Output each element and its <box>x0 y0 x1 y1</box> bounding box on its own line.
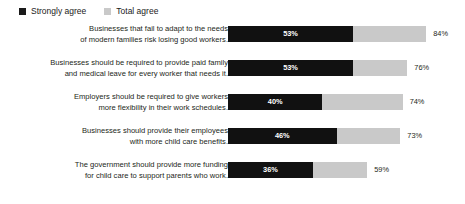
chart-row: Employers should be required to give wor… <box>0 92 465 126</box>
chart-row: Businesses should provide their employee… <box>0 126 465 160</box>
bar-segment-strongly-agree[interactable]: 46% <box>228 128 337 144</box>
category-label: Businesses should provide their employee… <box>23 126 228 147</box>
stacked-bar-chart: Strongly agree Total agree Businesses th… <box>0 0 465 204</box>
bar-value-strongly-agree: 46% <box>275 132 290 140</box>
bar-value-total-agree: 74% <box>410 98 425 106</box>
bar-segment-strongly-agree[interactable]: 36% <box>228 162 313 178</box>
bar-value-strongly-agree: 36% <box>263 166 278 174</box>
bar-segment-total-agree[interactable] <box>337 128 401 144</box>
bar-value-strongly-agree: 40% <box>268 98 283 106</box>
bar-group: 36%59% <box>228 162 389 178</box>
bar-group: 53%76% <box>228 60 429 76</box>
bar-group: 46%73% <box>228 128 422 144</box>
bar-segment-strongly-agree[interactable]: 40% <box>228 94 322 110</box>
bar-group: 40%74% <box>228 94 424 110</box>
legend-item-total-agree: Total agree <box>104 7 158 16</box>
legend-item-strongly-agree: Strongly agree <box>19 7 86 16</box>
chart-legend: Strongly agree Total agree <box>19 4 158 18</box>
bar-segment-total-agree[interactable] <box>313 162 367 178</box>
legend-swatch-total-agree-icon <box>104 8 111 15</box>
bar-value-strongly-agree: 53% <box>283 64 298 72</box>
stacked-bar[interactable]: 53% <box>228 26 426 42</box>
bar-segment-strongly-agree[interactable]: 53% <box>228 60 353 76</box>
category-label: Businesses that fail to adapt to the nee… <box>23 24 228 45</box>
bar-value-strongly-agree: 53% <box>283 30 298 38</box>
bar-segment-total-agree[interactable] <box>353 60 407 76</box>
bar-value-total-agree: 84% <box>433 30 448 38</box>
chart-row: Businesses should be required to provide… <box>0 58 465 92</box>
bar-value-total-agree: 76% <box>414 64 429 72</box>
bar-value-total-agree: 59% <box>374 166 389 174</box>
legend-swatch-strongly-agree-icon <box>19 8 26 15</box>
category-label: Employers should be required to give wor… <box>23 92 228 113</box>
legend-label-total-agree: Total agree <box>116 7 158 16</box>
bar-segment-strongly-agree[interactable]: 53% <box>228 26 353 42</box>
category-label: Businesses should be required to provide… <box>23 58 228 79</box>
bar-group: 53%84% <box>228 26 448 42</box>
bar-value-total-agree: 73% <box>407 132 422 140</box>
bar-segment-total-agree[interactable] <box>322 94 402 110</box>
chart-row: Businesses that fail to adapt to the nee… <box>0 24 465 58</box>
stacked-bar[interactable]: 46% <box>228 128 400 144</box>
stacked-bar[interactable]: 53% <box>228 60 407 76</box>
stacked-bar[interactable]: 40% <box>228 94 403 110</box>
bar-segment-total-agree[interactable] <box>353 26 426 42</box>
chart-row: The government should provide more fundi… <box>0 160 465 194</box>
legend-label-strongly-agree: Strongly agree <box>31 7 86 16</box>
chart-rows: Businesses that fail to adapt to the nee… <box>0 24 465 194</box>
stacked-bar[interactable]: 36% <box>228 162 367 178</box>
category-label: The government should provide more fundi… <box>23 160 228 181</box>
